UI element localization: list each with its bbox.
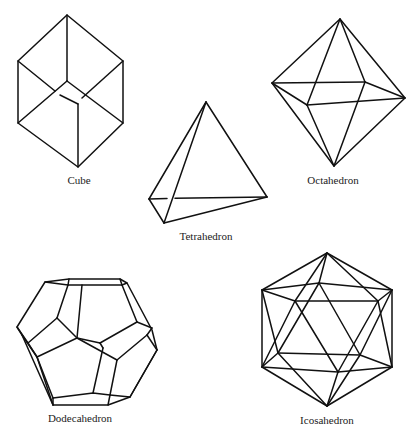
icosahedron-label: Icosahedron: [300, 414, 354, 426]
cube-label: Cube: [67, 174, 90, 186]
octahedron-label: Octahedron: [307, 174, 358, 186]
tetrahedron-label: Tetrahedron: [180, 230, 233, 242]
octahedron-drawing: [272, 19, 405, 166]
tetrahedron-drawing: [149, 102, 267, 223]
dodecahedron-label: Dodecahedron: [48, 412, 112, 424]
icosahedron-drawing: [262, 253, 392, 406]
solids-drawing: [0, 0, 417, 437]
dodecahedron-drawing: [17, 279, 157, 405]
platonic-solids-figure: Cube Octahedron Tetrahedron Dodecahedron…: [0, 0, 417, 437]
cube-drawing: [18, 15, 123, 167]
